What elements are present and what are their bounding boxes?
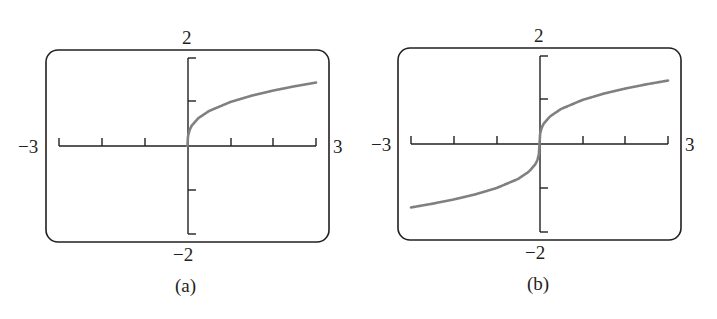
chart-panel-b: 2 −2 −3 3 (b) xyxy=(357,0,715,319)
chart-panel-a: 2 −2 −3 3 (a) xyxy=(0,0,358,319)
caption: (a) xyxy=(175,276,196,295)
chart-canvas-a xyxy=(0,0,358,319)
chart-canvas-b xyxy=(357,0,715,319)
ymin-label: −2 xyxy=(525,243,545,262)
xmax-label: 3 xyxy=(685,135,695,154)
curve-a xyxy=(188,83,317,146)
caption: (b) xyxy=(527,274,549,293)
xmax-label: 3 xyxy=(333,137,343,156)
ymax-label: 2 xyxy=(534,26,544,45)
xmin-label: −3 xyxy=(18,137,38,156)
xmin-label: −3 xyxy=(371,135,391,154)
ymax-label: 2 xyxy=(182,28,192,47)
ymin-label: −2 xyxy=(173,245,193,264)
